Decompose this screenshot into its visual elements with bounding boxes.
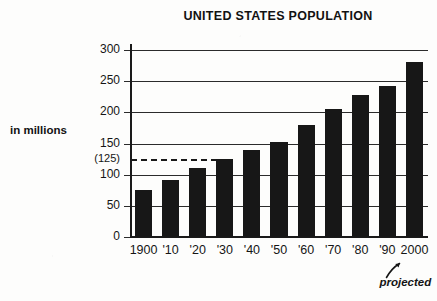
bar-60 xyxy=(298,125,315,237)
x-tick-label-90: '90 xyxy=(379,243,395,257)
bar-40 xyxy=(243,150,260,237)
chart-figure: UNITED STATES POPULATION in millions 300… xyxy=(0,0,437,301)
y-tick-label-300: 300 xyxy=(58,42,120,56)
bar-80 xyxy=(352,95,369,237)
x-axis-tick-labels: 1900'10'20'30'40'50'60'70'80'902000 xyxy=(130,243,428,263)
bar-20 xyxy=(189,168,206,237)
projected-annotation-label: projected xyxy=(379,276,431,288)
bar-2000 xyxy=(406,62,423,237)
y-axis-tick-labels: 300250200150(125)100500 xyxy=(54,0,120,301)
x-tick-label-20: '20 xyxy=(190,243,206,257)
bar-1900 xyxy=(135,190,152,237)
x-tick-label-80: '80 xyxy=(352,243,368,257)
bar-90 xyxy=(379,86,396,237)
y-tick-label-150: 150 xyxy=(58,136,120,150)
x-tick-label-40: '40 xyxy=(244,243,260,257)
y-tick-label-100: 100 xyxy=(58,167,120,181)
y-tick-label-200: 200 xyxy=(58,104,120,118)
x-tick-label-2000: 2000 xyxy=(401,243,429,257)
x-tick-label-50: '50 xyxy=(271,243,287,257)
bar-10 xyxy=(162,180,179,237)
x-tick-label-30: '30 xyxy=(217,243,233,257)
bar-30 xyxy=(216,159,233,237)
x-tick-label-10: '10 xyxy=(162,243,178,257)
x-tick-label-60: '60 xyxy=(298,243,314,257)
bar-70 xyxy=(325,109,342,237)
y-tick-label-250: 250 xyxy=(58,73,120,87)
page-title: UNITED STATES POPULATION xyxy=(128,9,428,23)
bar-50 xyxy=(270,142,287,237)
x-tick-label-1900: 1900 xyxy=(130,243,158,257)
bars-group xyxy=(130,50,428,237)
y-tick-label-125: (125) xyxy=(58,152,120,164)
y-tick-label-0: 0 xyxy=(58,229,120,243)
y-tick-label-50: 50 xyxy=(58,198,120,212)
x-tick-label-70: '70 xyxy=(325,243,341,257)
